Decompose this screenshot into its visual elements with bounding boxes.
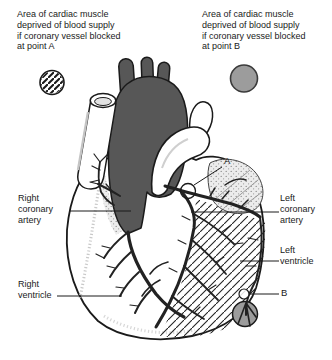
label-line: coronary xyxy=(280,204,315,215)
label-left-ventricle: Left ventricle xyxy=(280,245,314,267)
legend-b-line: if coronary vessel blocked xyxy=(202,31,306,42)
label-line: Left xyxy=(280,245,314,256)
legend-a-line: at point A xyxy=(17,41,121,52)
legend-b-text: Area of cardiac muscle deprived of blood… xyxy=(202,9,306,52)
label-line: ventricle xyxy=(280,256,314,267)
point-b-marker xyxy=(239,289,249,299)
legend-swatch-b-gray-circle xyxy=(231,65,258,92)
legend-swatch-a-hatched-circle xyxy=(40,71,64,95)
label-line: Left xyxy=(280,193,315,204)
legend-a-text: Area of cardiac muscle deprived of blood… xyxy=(17,9,121,52)
label-point-a: A xyxy=(224,156,230,166)
label-line: artery xyxy=(280,215,315,226)
legend-a-line: deprived of blood supply xyxy=(17,20,121,31)
label-left-coronary-artery: Left coronary artery xyxy=(280,193,315,225)
legend-a-line: if coronary vessel blocked xyxy=(17,31,121,42)
legend-b-line: at point B xyxy=(202,41,306,52)
label-line: artery xyxy=(18,215,53,226)
label-line: ventricle xyxy=(18,290,52,301)
label-line: coronary xyxy=(18,204,53,215)
legend-b-line: deprived of blood supply xyxy=(202,20,306,31)
legend-a-line: Area of cardiac muscle xyxy=(17,9,121,20)
heart-diagram-figure: Area of cardiac muscle deprived of blood… xyxy=(0,0,332,360)
label-point-b: B xyxy=(281,288,287,298)
label-right-ventricle: Right ventricle xyxy=(18,279,52,301)
label-line: Right xyxy=(18,279,52,290)
heart-illustration xyxy=(0,0,332,360)
label-line: Right xyxy=(18,193,53,204)
legend-b-line: Area of cardiac muscle xyxy=(202,9,306,20)
label-right-coronary-artery: Right coronary artery xyxy=(18,193,53,225)
